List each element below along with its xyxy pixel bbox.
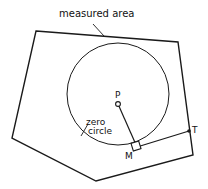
pole-point — [116, 102, 121, 107]
tracer-point — [187, 129, 191, 133]
pole-arm — [118, 104, 137, 147]
tracer-arm — [137, 131, 189, 147]
circle-label-line2: circle — [88, 127, 112, 136]
measuring-wheel-box — [131, 141, 141, 151]
measured-area-leader — [93, 24, 104, 36]
measuring-wheel-label: M — [125, 152, 133, 161]
pole-label: P — [115, 91, 120, 100]
planimeter-diagram: measured area zero circle P M T — [0, 0, 208, 189]
diagram-drawing — [0, 0, 208, 189]
measured-area-label: measured area — [59, 9, 134, 19]
measured-area-polygon — [12, 31, 193, 181]
tracer-label: T — [192, 126, 198, 135]
